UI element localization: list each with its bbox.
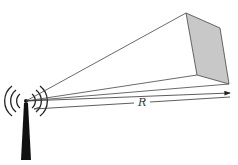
range-label: R xyxy=(137,96,146,109)
target-face xyxy=(186,13,229,84)
antenna-tower-icon xyxy=(21,99,31,160)
radar-diagram: R xyxy=(0,0,238,165)
range-arrow xyxy=(26,93,230,109)
